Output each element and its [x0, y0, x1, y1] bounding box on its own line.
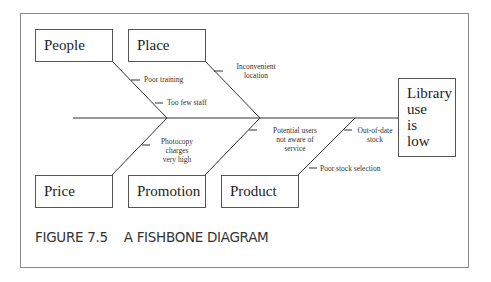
cause-poor-stock-selection: Poor stock selection: [320, 164, 380, 173]
people-bone: [112, 61, 167, 118]
cause-line: Inconvenient: [226, 62, 286, 71]
cause-inconvenient-location: Inconvenient location: [226, 62, 286, 80]
effect-line: use: [407, 101, 455, 117]
category-price: Price: [35, 175, 113, 208]
cause-line: Potential users: [262, 126, 328, 135]
category-promotion: Promotion: [128, 175, 206, 208]
cause-photocopy-charges: Photocopy charges very high: [152, 137, 202, 164]
cause-too-few-staff: Too few staff: [167, 98, 207, 107]
effect-line: Library: [407, 85, 455, 101]
cause-line: service: [262, 144, 328, 153]
category-label: Product: [230, 183, 277, 200]
effect-line: low: [407, 133, 455, 149]
cause-line: Out-of-date: [354, 126, 396, 135]
cause-line: Photocopy: [152, 137, 202, 146]
category-product: Product: [221, 175, 299, 208]
cause-line: location: [226, 71, 286, 80]
effect-box: Library use is low: [398, 78, 456, 157]
category-label: Place: [137, 37, 169, 54]
category-label: Promotion: [137, 183, 200, 200]
cause-poor-training: Poor training: [144, 75, 183, 84]
category-place: Place: [128, 29, 206, 62]
cause-line: stock: [354, 135, 396, 144]
category-label: People: [44, 37, 85, 54]
figure-caption: FIGURE 7.5 A FISHBONE DIAGRAM: [35, 229, 268, 245]
category-label: Price: [44, 183, 75, 200]
cause-potential-users: Potential users not aware of service: [262, 126, 328, 153]
category-people: People: [35, 29, 113, 62]
cause-line: not aware of: [262, 135, 328, 144]
cause-line: charges: [152, 146, 202, 155]
cause-out-of-date-stock: Out-of-date stock: [354, 126, 396, 144]
cause-line: very high: [152, 155, 202, 164]
promotion-bone: [205, 118, 260, 175]
effect-line: is: [407, 117, 455, 133]
